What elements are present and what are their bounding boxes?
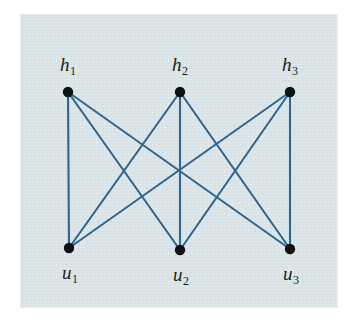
vertex-label-subscript-u1: 1 [72,272,79,286]
vertex-label-h3: h3 [282,55,298,77]
graph-vertex-h3 [285,87,295,97]
vertex-label-base-h2: h [172,54,182,75]
graph-vertex-u3 [285,244,295,254]
vertex-label-base-u3: u [283,263,293,284]
vertex-label-subscript-h3: 3 [292,64,299,78]
vertex-label-u3: u3 [283,264,299,286]
vertex-label-base-h3: h [282,54,292,75]
edge-layer [68,92,290,250]
graph-edge [68,92,69,248]
vertex-label-subscript-u3: 3 [293,273,300,287]
vertex-label-base-u2: u [173,264,183,285]
vertex-label-subscript-u2: 2 [183,274,190,288]
vertex-label-base-u1: u [62,262,72,283]
vertex-label-base-h1: h [60,54,70,75]
graph-vertex-u1 [64,243,74,253]
vertex-label-u1: u1 [62,263,78,285]
vertex-label-h2: h2 [172,55,188,77]
vertex-label-subscript-h1: 1 [70,64,77,78]
graph-vertex-h2 [175,87,185,97]
figure-root: h1h2h3u1u2u3 [0,0,357,326]
vertex-label-u2: u2 [173,265,189,287]
vertex-label-h1: h1 [60,55,76,77]
graph-vertex-h1 [63,87,73,97]
vertex-label-subscript-h2: 2 [182,64,189,78]
graph-vertex-u2 [175,245,185,255]
